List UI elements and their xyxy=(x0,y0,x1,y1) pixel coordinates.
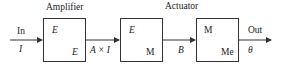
amplifier-title: Amplifier xyxy=(46,3,83,13)
actuator-mechanical-output-domain: Me xyxy=(221,48,234,58)
signal-label-b: B xyxy=(178,46,184,56)
actuator-mechanical-input-domain: M xyxy=(204,26,212,36)
amplifier-output-domain: E xyxy=(72,48,78,58)
actuator-electrical-output-domain: M xyxy=(146,48,154,58)
output-signal-label: θ xyxy=(248,46,253,56)
input-label: In xyxy=(17,27,25,37)
actuator-electrical-block xyxy=(120,18,163,62)
actuator-electrical-input-domain: E xyxy=(129,26,135,36)
amplifier-input-domain: E xyxy=(52,26,58,36)
input-signal-label: I xyxy=(19,45,22,55)
amplifier-block xyxy=(43,18,86,62)
signal-label-axi: A × I xyxy=(90,46,110,56)
actuator-title: Actuator xyxy=(165,2,198,12)
output-label: Out xyxy=(248,26,262,36)
